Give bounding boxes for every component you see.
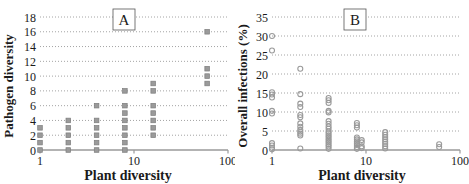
panel-a-letter-box: A [113,9,135,30]
data-point [66,140,71,145]
data-point [94,140,99,145]
data-point [94,103,99,108]
data-point [270,48,275,53]
data-point [94,148,99,153]
data-point [94,126,99,131]
data-point [38,126,43,131]
panel-b-x-tick-labels: 110100 [269,154,469,168]
panel-b-y-axis-title: Overall infections (%) [235,24,250,147]
data-point [298,121,303,126]
data-point [66,133,71,138]
y-tick-label: 0 [262,144,268,158]
panel-b-gridlines [272,17,460,131]
figure-scatter-panels: 110100 024681012141618 A Plant diversity… [0,0,469,184]
y-tick-label: 16 [24,25,36,39]
data-point [151,103,156,108]
data-point [151,89,156,94]
panel-b-plot: 110100 05101520253035 B Plant diversity … [234,0,469,184]
data-point [38,148,43,153]
y-tick-label: 8 [30,84,36,98]
data-point [205,29,210,34]
data-point [123,103,128,108]
y-tick-label: 0 [30,144,36,158]
panel-a-y-axis-title: Pathogen diversity [1,34,16,138]
panel-b-data-points [270,34,442,152]
x-tick-label: 1 [37,154,43,168]
panel-b-y-tick-labels: 05101520253035 [256,11,268,158]
data-point [66,126,71,131]
y-tick-label: 12 [24,55,36,69]
panel-a-plot: 110100 024681012141618 A Plant diversity… [0,0,235,184]
data-point [38,140,43,145]
data-point [298,92,303,97]
y-tick-label: 10 [24,70,36,84]
x-tick-label: 10 [128,154,140,168]
data-point [123,126,128,131]
panel-a: 110100 024681012141618 A Plant diversity… [0,0,235,184]
data-point [123,140,128,145]
data-point [94,118,99,123]
y-tick-label: 6 [30,99,36,113]
panel-b-label: B [350,12,360,28]
y-tick-label: 14 [24,40,36,54]
y-tick-label: 30 [256,30,268,44]
data-point [94,133,99,138]
panel-a-gridlines [40,17,228,135]
panel-a-y-tick-labels: 024681012141618 [24,11,36,158]
y-tick-label: 35 [256,11,268,25]
y-tick-label: 25 [256,49,268,63]
data-point [205,74,210,79]
y-tick-label: 4 [30,114,36,128]
panel-b-letter-box: B [344,9,366,30]
data-point [298,101,303,106]
data-point [123,111,128,116]
data-point [66,118,71,123]
data-point [38,133,43,138]
x-tick-label: 1 [269,154,275,168]
panel-b: 110100 05101520253035 B Plant diversity … [234,0,469,184]
data-point [205,81,210,86]
x-tick-label: 10 [360,154,372,168]
y-tick-label: 10 [256,106,268,120]
y-tick-label: 18 [24,11,36,25]
data-point [151,111,156,116]
data-point [298,66,303,71]
panel-a-label: A [119,12,130,28]
y-tick-label: 15 [256,87,268,101]
x-tick-label: 100 [219,154,235,168]
data-point [151,81,156,86]
data-point [151,118,156,123]
y-tick-label: 20 [256,68,268,82]
data-point [205,66,210,71]
x-tick-label: 100 [451,154,469,168]
data-point [123,133,128,138]
data-point [66,148,71,153]
data-point [123,118,128,123]
y-tick-label: 2 [30,129,36,143]
data-point [151,126,156,131]
panel-b-x-axis-title: Plant diversity [318,168,406,183]
data-point [151,133,156,138]
data-point [123,89,128,94]
panel-a-x-tick-labels: 110100 [37,154,235,168]
panel-a-data-points [38,29,210,152]
data-point [123,148,128,153]
panel-a-x-axis-title: Plant diversity [84,168,172,183]
y-tick-label: 5 [262,125,268,139]
